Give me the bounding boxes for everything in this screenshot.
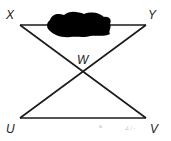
label-u: U — [6, 122, 15, 136]
label-w: W — [77, 53, 90, 67]
ink-blot — [47, 12, 111, 37]
faint-mark-1: a — [99, 123, 102, 129]
label-v: V — [150, 122, 159, 136]
label-y: Y — [148, 8, 157, 22]
segments — [20, 25, 146, 118]
triangle-diagram: X Y W U V a ∠ / - — [0, 0, 171, 141]
label-x: X — [5, 8, 15, 22]
faint-mark-2: ∠ / - — [125, 125, 135, 131]
